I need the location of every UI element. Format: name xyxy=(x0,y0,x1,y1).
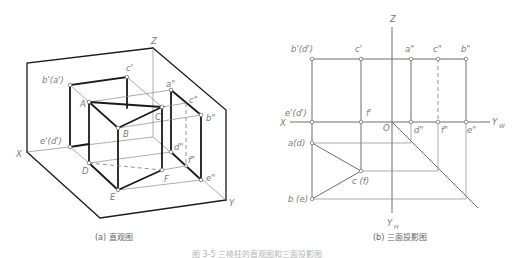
label-d-dprime: d" xyxy=(414,125,423,135)
label-d-dprime: d" xyxy=(174,142,183,152)
label-yh-sub: H xyxy=(394,223,399,230)
label-c-dprime: c" xyxy=(189,95,198,105)
label-f-prime: f' xyxy=(366,108,371,118)
label-c-prime: c' xyxy=(126,63,133,73)
figure-caption: 图 3-5 三棱柱的直观图和三面投影图 xyxy=(192,249,322,258)
front-projection-bottom xyxy=(70,144,89,147)
45-degree-line xyxy=(392,122,478,208)
label-x: X xyxy=(279,118,286,128)
label-yw: Y xyxy=(492,117,498,127)
label-B: B xyxy=(123,129,129,139)
front-view xyxy=(312,59,466,122)
label-a-dprime: a" xyxy=(405,44,414,54)
top-view xyxy=(312,122,361,199)
label-a-d: a(d) xyxy=(288,138,305,148)
label-e-dprime: e" xyxy=(467,125,476,135)
label-c-prime: c' xyxy=(355,44,362,54)
label-a-dprime: a" xyxy=(166,79,175,89)
label-f-dprime: f" xyxy=(441,125,448,135)
label-E: E xyxy=(110,192,116,202)
label-x: X xyxy=(15,149,22,159)
pictorial-view: Z X Y b'(a') c' e'(d') A B C D E F a" c"… xyxy=(15,36,235,242)
label-b-dprime: b" xyxy=(461,44,470,54)
horizontal-plane-outline xyxy=(27,152,226,218)
caption-pictorial: (a) 直观图 xyxy=(95,232,133,242)
label-c-f: c (f) xyxy=(352,176,369,186)
label-e-dprime: e" xyxy=(206,173,215,183)
label-e-prime-d-prime: e'(d') xyxy=(285,108,307,118)
triangular-prism xyxy=(89,102,162,190)
label-y: Y xyxy=(229,198,235,208)
label-b-e: b (e) xyxy=(288,194,308,204)
label-e-prime-d-prime: e'(d') xyxy=(40,136,62,146)
label-yh: Y xyxy=(387,218,393,228)
label-D: D xyxy=(82,166,89,176)
label-z: Z xyxy=(150,36,157,46)
label-A: A xyxy=(79,99,86,109)
side-view xyxy=(411,59,466,122)
label-F: F xyxy=(164,174,169,184)
label-c-dprime: c" xyxy=(433,44,442,54)
label-C: C xyxy=(155,112,161,122)
orthographic-projection-figure: Z X Y b'(a') c' e'(d') A B C D E F a" c"… xyxy=(0,0,517,258)
caption-three-view: (b) 三面投影图 xyxy=(373,232,427,242)
label-origin: O xyxy=(383,123,390,133)
label-z: Z xyxy=(389,14,396,24)
label-b-prime-a-prime: b'(a') xyxy=(42,75,64,85)
label-f-dprime: f" xyxy=(188,155,195,165)
label-b-prime-d-prime: b'(d') xyxy=(291,44,313,54)
three-view-projection: Z X O Y W Y H b'(d') c' a" c" b" e'(d') … xyxy=(279,14,506,242)
label-b-dprime: b" xyxy=(206,113,215,123)
label-yw-sub: W xyxy=(499,122,506,129)
